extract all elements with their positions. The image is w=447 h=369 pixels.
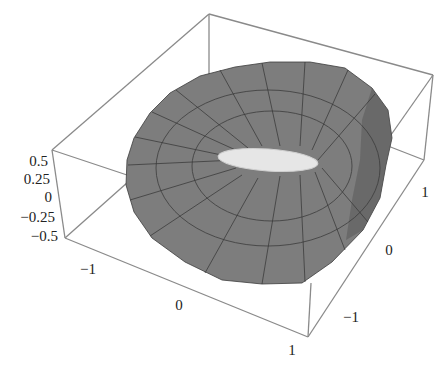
y-tick: 0	[385, 242, 393, 258]
y-tick: 1	[421, 184, 429, 200]
z-tick: −0.5	[31, 228, 58, 244]
x-tick: −1	[80, 261, 96, 277]
surface	[126, 62, 392, 284]
z-axis-labels: 0.5 0.25 0 −0.25 −0.5	[20, 153, 58, 244]
z-tick: 0.25	[24, 171, 50, 187]
z-tick: −0.25	[20, 209, 55, 225]
z-tick: 0.5	[29, 153, 48, 169]
x-tick: 1	[288, 342, 296, 358]
y-tick: −1	[343, 309, 359, 325]
x-tick: 0	[175, 297, 183, 313]
surface-plot: 0.5 0.25 0 −0.25 −0.5 −1 0 1 1 0 −1	[0, 0, 447, 369]
z-tick: 0	[45, 189, 53, 205]
